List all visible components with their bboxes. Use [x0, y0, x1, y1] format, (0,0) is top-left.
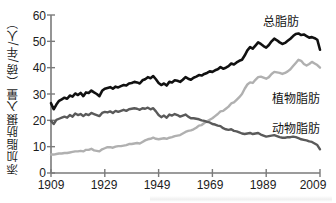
- series-label-animal-fat: 动物脂肪: [272, 119, 320, 136]
- chart-container: 添加脂肪摄入量（磅/年/人） 60 50 40 30 20 10 0 1909 …: [0, 0, 336, 203]
- page-edge-artifact: [150, 196, 332, 202]
- series-label-vegetable-fat: 植物脂肪: [272, 89, 320, 106]
- series-label-total-fat: 总脂肪: [263, 12, 299, 29]
- series-line-植物脂肪: [51, 60, 320, 155]
